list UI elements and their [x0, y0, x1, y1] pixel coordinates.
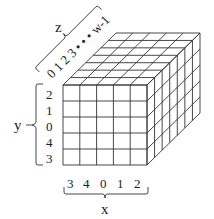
cube-grid: [63, 33, 200, 165]
y-tick: 1: [46, 103, 53, 118]
z-axis-label: z: [55, 19, 62, 35]
y-tick: 2: [46, 87, 53, 102]
y-axis-label: y: [14, 117, 22, 133]
y-axis-bracket: [32, 84, 43, 165]
x-tick: 2: [134, 176, 141, 191]
x-axis-ticks: 3 4 0 1 2: [67, 176, 141, 191]
x-tick: 1: [117, 176, 124, 191]
x-axis-label: x: [101, 201, 109, 217]
y-tick: 4: [46, 135, 53, 150]
y-tick: 3: [46, 151, 53, 166]
x-tick: 3: [67, 176, 74, 191]
y-tick: 0: [46, 119, 53, 134]
z-axis-group: 0 1 2 3 • • • w-1 z: [20, 0, 113, 84]
x-tick: 0: [100, 176, 107, 191]
y-axis-ticks: 2 1 0 4 3: [46, 87, 53, 166]
cube-diagram: y 2 1 0 4 3 3 4 0 1 2 x 0 1 2 3 • • • w-…: [0, 0, 214, 219]
x-tick: 4: [83, 176, 90, 191]
